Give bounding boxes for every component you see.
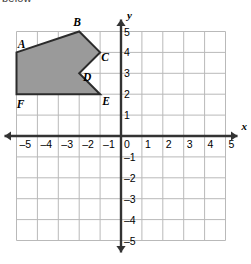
x-axis-label: x (241, 120, 248, 132)
y-axis-arrow-down (116, 246, 125, 253)
axis-names: xy (125, 9, 248, 133)
y-tick-label: 2 (124, 88, 130, 100)
y-tick-label: 4 (124, 46, 130, 58)
x-tick-label: 3 (187, 138, 193, 150)
x-tick-label: –5 (20, 138, 32, 150)
x-tick-label: 4 (208, 138, 214, 150)
x-tick-label: –3 (61, 138, 73, 150)
x-tick-label: 0 (124, 138, 130, 150)
y-tick-label: –3 (124, 193, 136, 205)
vertex-label-f: F (16, 98, 25, 110)
y-tick-label: –1 (124, 151, 136, 163)
y-tick-label: –5 (124, 235, 136, 247)
polygon-shapes (17, 32, 101, 95)
x-axis-arrow-left (5, 131, 12, 140)
polygon-ABCDEF (17, 32, 101, 95)
vertex-label-e: E (101, 95, 110, 107)
coordinate-plane-graph: –5–4–3–2–1012345–5–4–3–2–112345 xy ABCDE… (0, 0, 251, 264)
x-tick-label: –1 (103, 138, 115, 150)
vertex-label-a: A (17, 38, 26, 50)
x-tick-label: –4 (40, 138, 52, 150)
vertex-label-b: B (72, 16, 81, 28)
x-tick-label: 2 (166, 138, 172, 150)
x-tick-label: 1 (145, 138, 151, 150)
y-tick-label: –4 (124, 214, 136, 226)
y-tick-label: 5 (124, 26, 130, 38)
y-tick-label: –2 (124, 172, 136, 184)
vertex-label-c: C (101, 51, 109, 63)
vertex-label-d: D (82, 71, 92, 83)
x-tick-label: 5 (229, 138, 235, 150)
figure-stage: below –5–4–3–2–1012345–5–4–3–2–112345 xy… (0, 0, 251, 264)
y-tick-label: 3 (124, 67, 130, 79)
y-tick-label: 1 (124, 109, 130, 121)
y-axis-label: y (125, 9, 132, 21)
x-tick-label: –2 (82, 138, 94, 150)
